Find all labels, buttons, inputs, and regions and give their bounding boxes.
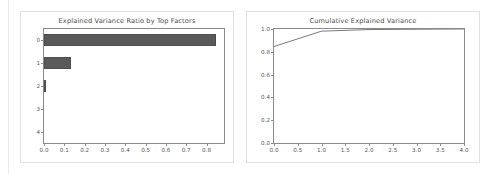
chart-panel-explained-variance-ratio: Explained Variance Ratio by Top Factors … — [20, 11, 234, 163]
chart-title-cumulative-explained-variance: Cumulative Explained Variance — [247, 17, 479, 25]
xtick-label-1: 0.5 — [293, 147, 302, 153]
xtick-label-6: 0.6 — [161, 147, 170, 153]
bar-factor-2 — [44, 80, 46, 92]
xtick-label-7: 0.7 — [182, 147, 191, 153]
ytick-label-4: 0.8 — [261, 49, 270, 55]
xtick-2 — [322, 143, 323, 146]
cumulative-variance-polyline — [274, 29, 464, 47]
page-gutter-rule — [8, 0, 9, 174]
ytick-4 — [41, 132, 44, 133]
figure-canvas: Explained Variance Ratio by Top Factors … — [0, 0, 503, 174]
bar-factor-1 — [44, 57, 71, 69]
ytick-2 — [271, 97, 274, 98]
xtick-3 — [105, 143, 106, 146]
xtick-label-2: 0.2 — [80, 147, 89, 153]
xtick-label-7: 3.5 — [436, 147, 445, 153]
chart-panel-cumulative-explained-variance: Cumulative Explained Variance 0.00.51.01… — [246, 11, 480, 163]
xtick-0 — [44, 143, 45, 146]
xtick-label-8: 0.8 — [202, 147, 211, 153]
bar-factor-0 — [44, 34, 216, 46]
plot-area-line — [274, 29, 464, 143]
ytick-label-1: 1 — [36, 60, 40, 66]
ytick-4 — [271, 52, 274, 53]
ytick-label-0: 0 — [36, 37, 40, 43]
xtick-8 — [464, 143, 465, 146]
ytick-5 — [271, 29, 274, 30]
xtick-label-2: 1.0 — [317, 147, 326, 153]
xtick-7 — [440, 143, 441, 146]
ytick-2 — [41, 86, 44, 87]
xtick-label-4: 0.4 — [121, 147, 130, 153]
ytick-label-3: 0.6 — [261, 72, 270, 78]
axes-cumulative-explained-variance: 0.00.51.01.52.02.53.03.54.00.00.20.40.60… — [273, 28, 465, 144]
ytick-label-2: 2 — [36, 83, 40, 89]
ytick-label-1: 0.2 — [261, 117, 270, 123]
ytick-1 — [41, 63, 44, 64]
xtick-5 — [393, 143, 394, 146]
xtick-label-5: 0.5 — [141, 147, 150, 153]
xtick-4 — [125, 143, 126, 146]
ytick-1 — [271, 120, 274, 121]
ytick-label-2: 0.4 — [261, 94, 270, 100]
xtick-4 — [369, 143, 370, 146]
xtick-6 — [166, 143, 167, 146]
ytick-0 — [41, 40, 44, 41]
xtick-label-3: 0.3 — [100, 147, 109, 153]
xtick-1 — [64, 143, 65, 146]
plot-area-bars — [44, 29, 224, 143]
xtick-label-1: 0.1 — [60, 147, 69, 153]
xtick-7 — [186, 143, 187, 146]
ytick-label-4: 4 — [36, 129, 40, 135]
ytick-3 — [271, 75, 274, 76]
xtick-8 — [207, 143, 208, 146]
xtick-label-3: 1.5 — [341, 147, 350, 153]
ytick-label-0: 0.0 — [261, 140, 270, 146]
ytick-3 — [41, 109, 44, 110]
ytick-label-5: 1.0 — [261, 26, 270, 32]
xtick-label-4: 2.0 — [365, 147, 374, 153]
xtick-5 — [146, 143, 147, 146]
xtick-label-5: 2.5 — [388, 147, 397, 153]
xtick-1 — [298, 143, 299, 146]
xtick-0 — [274, 143, 275, 146]
xtick-6 — [417, 143, 418, 146]
xtick-2 — [85, 143, 86, 146]
cumulative-variance-line — [274, 29, 464, 143]
ytick-label-3: 3 — [36, 106, 40, 112]
xtick-label-0: 0.0 — [40, 147, 49, 153]
xtick-label-6: 3.0 — [412, 147, 421, 153]
chart-title-explained-variance-ratio: Explained Variance Ratio by Top Factors — [21, 17, 233, 25]
ytick-0 — [271, 143, 274, 144]
xtick-label-8: 4.0 — [460, 147, 469, 153]
xtick-label-0: 0.0 — [270, 147, 279, 153]
axes-explained-variance-ratio: 0.00.10.20.30.40.50.60.70.801234 — [43, 28, 225, 144]
xtick-3 — [345, 143, 346, 146]
